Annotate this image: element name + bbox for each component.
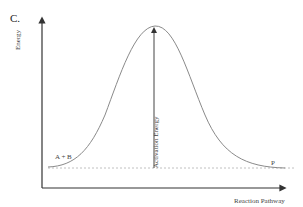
activation-energy-label: Activation Energy <box>152 117 160 168</box>
diagram-canvas <box>0 0 303 207</box>
y-axis-label: Energy <box>14 30 22 50</box>
reactants-label: A + B <box>55 153 72 161</box>
products-label: P <box>271 159 275 167</box>
energy-diagram: C. Energy Reaction Pathway A + B P Activ… <box>0 0 303 207</box>
energy-curve <box>48 26 285 168</box>
x-axis-label: Reaction Pathway <box>234 197 285 205</box>
panel-label: C. <box>10 12 20 24</box>
